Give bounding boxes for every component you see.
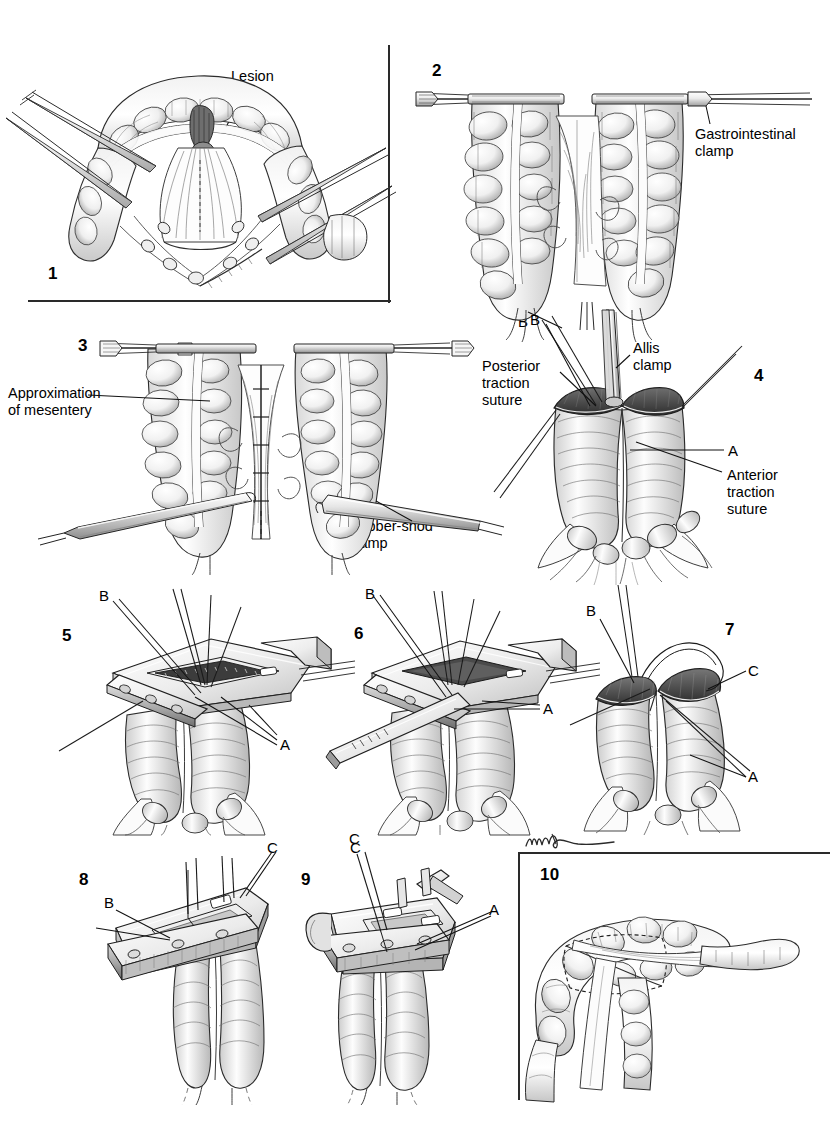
panel-5-artwork xyxy=(55,585,355,835)
gastrointestinal-clamp-right xyxy=(592,92,812,106)
gastrointestinal-clamp-left xyxy=(416,92,564,106)
panel-5: 5 B A xyxy=(55,585,355,835)
panel-6: 6 B A C xyxy=(330,585,600,835)
panel-10-artwork xyxy=(510,840,838,1105)
panel-1-artwork xyxy=(0,20,400,310)
panel-4-artwork xyxy=(430,310,838,585)
panel-7: 7 B C A xyxy=(570,585,838,835)
panel-2: 2 Gastrointestinal clamp B xyxy=(410,40,838,330)
illustration-plate: 1 Lesion xyxy=(0,0,838,1131)
panel-7-artwork xyxy=(570,585,838,835)
panel-2-artwork xyxy=(410,40,838,330)
panel-1: 1 Lesion xyxy=(0,20,400,310)
panel-4: 4 Posterior traction suture Allis clamp … xyxy=(430,310,838,585)
panel-6-artwork xyxy=(330,585,600,835)
panel-10: 10 xyxy=(510,840,838,1105)
